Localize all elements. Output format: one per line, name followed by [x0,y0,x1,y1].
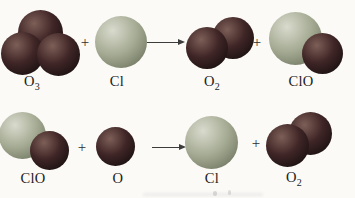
oxygen-atom-sphere [96,127,135,166]
formula-label-o3: O3 [24,73,40,92]
cropped-text-artifact [213,191,217,196]
formula-label-o2: O2 [204,73,220,92]
chlorine-atom-sphere [185,116,238,169]
oxygen-atom-sphere [302,33,343,74]
formula-label-o2: O2 [286,169,302,188]
formula-label-clo: ClO [288,73,313,92]
plus-sign: + [78,140,86,155]
oxygen-atom-sphere [266,124,309,167]
reaction-arrow-icon [147,42,178,43]
chlorine-atom-sphere [95,16,147,68]
formula-label-cl: Cl [110,73,124,92]
plus-sign: + [81,35,89,50]
formula-label-cl: Cl [205,170,219,189]
oxygen-atom-sphere [30,131,69,170]
cropped-text-artifact [228,190,231,195]
reaction-arrow-icon [152,147,179,148]
formula-label-clo: ClO [20,170,45,189]
cropped-text-artifact [143,193,263,196]
formula-label-o: O [113,170,124,189]
oxygen-atom-sphere [186,27,228,69]
ozone-depletion-reaction-diagram: + + O3 Cl O2 ClO + + ClO O Cl O2 [0,0,355,198]
plus-sign: + [253,35,261,50]
oxygen-atom-sphere [37,33,80,76]
plus-sign: + [252,136,260,151]
